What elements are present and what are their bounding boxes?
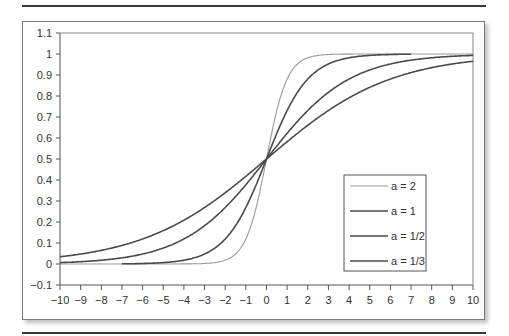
x-tick-label: −9 (74, 294, 87, 306)
x-tick-label: 0 (263, 294, 269, 306)
x-tick-label: −8 (95, 294, 108, 306)
x-tick-label: 9 (449, 294, 455, 306)
legend-label: a = 2 (391, 180, 416, 192)
x-tick-label: 4 (346, 294, 352, 306)
x-tick-label: 6 (387, 294, 393, 306)
x-tick-label: −7 (116, 294, 129, 306)
x-tick-label: 8 (429, 294, 435, 306)
x-tick-label: 5 (367, 294, 373, 306)
y-tick-label: 1 (46, 48, 52, 60)
y-tick-label: 0.2 (37, 216, 52, 228)
x-tick-label: 1 (284, 294, 290, 306)
legend-label: a = 1/2 (391, 230, 425, 242)
x-tick-label: 2 (305, 294, 311, 306)
y-tick-label: 0.7 (37, 111, 52, 123)
y-tick-label: 0.1 (37, 237, 52, 249)
x-tick-label: −4 (178, 294, 191, 306)
x-tick-label: −10 (51, 294, 70, 306)
x-tick-label: 10 (467, 294, 479, 306)
x-tick-label: −1 (240, 294, 253, 306)
y-tick-label: 0.6 (37, 132, 52, 144)
legend-label: a = 1 (391, 205, 416, 217)
legend-label: a = 1/3 (391, 255, 425, 267)
x-tick-label: −6 (136, 294, 149, 306)
legend: a = 2a = 1a = 1/2a = 1/3 (344, 175, 426, 271)
y-tick-label: −0.1 (30, 279, 52, 291)
x-tick-label: −3 (198, 294, 211, 306)
x-tick-label: 3 (325, 294, 331, 306)
y-tick-label: 0.4 (37, 174, 52, 186)
y-tick-label: 0.3 (37, 195, 52, 207)
y-tick-label: 0 (46, 258, 52, 270)
x-tick-label: −2 (219, 294, 232, 306)
y-tick-label: 0.9 (37, 69, 52, 81)
y-tick-label: 0.5 (37, 153, 52, 165)
logistic-chart: 1.110.90.80.70.60.50.40.30.20.10−0.1−10−… (0, 0, 509, 336)
x-tick-label: −5 (157, 294, 170, 306)
x-tick-label: 7 (408, 294, 414, 306)
y-tick-label: 1.1 (37, 27, 52, 39)
y-tick-label: 0.8 (37, 90, 52, 102)
